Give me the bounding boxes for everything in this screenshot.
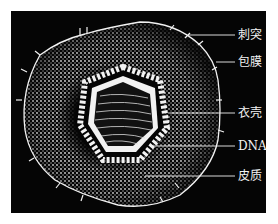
- label-envelope: 包膜: [238, 56, 262, 68]
- label-capsid: 衣壳: [238, 107, 262, 119]
- label-spike: 刺突: [238, 29, 262, 41]
- virus-illustration: [0, 0, 278, 224]
- label-dna: DNA: [238, 140, 267, 152]
- label-tegument: 皮质: [238, 170, 262, 182]
